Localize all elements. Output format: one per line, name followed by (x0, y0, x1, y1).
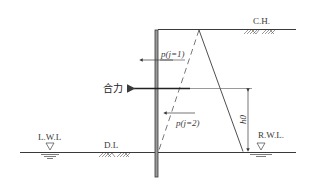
label-pressure-case-1: p(j=1) (160, 49, 185, 59)
water-level-icon (250, 143, 272, 157)
pressure-triangle (199, 30, 243, 152)
label-right-water-level: R.W.L. (258, 130, 284, 140)
label-resultant-force: 合力 (103, 82, 123, 94)
pressure-dashed-line (159, 30, 199, 150)
water-level-icon (41, 143, 59, 159)
sheet-pile-diagram: C.H. D.L L.W.L R.W.L. (0, 0, 309, 188)
label-height-h0: h0 (238, 115, 248, 125)
soil-hatch-icon (244, 30, 275, 34)
label-pressure-case-2: p(j=2) (175, 118, 200, 128)
label-left-water-level: L.W.L (38, 132, 61, 142)
label-dredge-level: D.L (104, 140, 118, 150)
soil-hatch-icon (99, 153, 130, 157)
label-crest-height: C.H. (253, 16, 270, 26)
sheet-pile-wall (155, 30, 158, 177)
